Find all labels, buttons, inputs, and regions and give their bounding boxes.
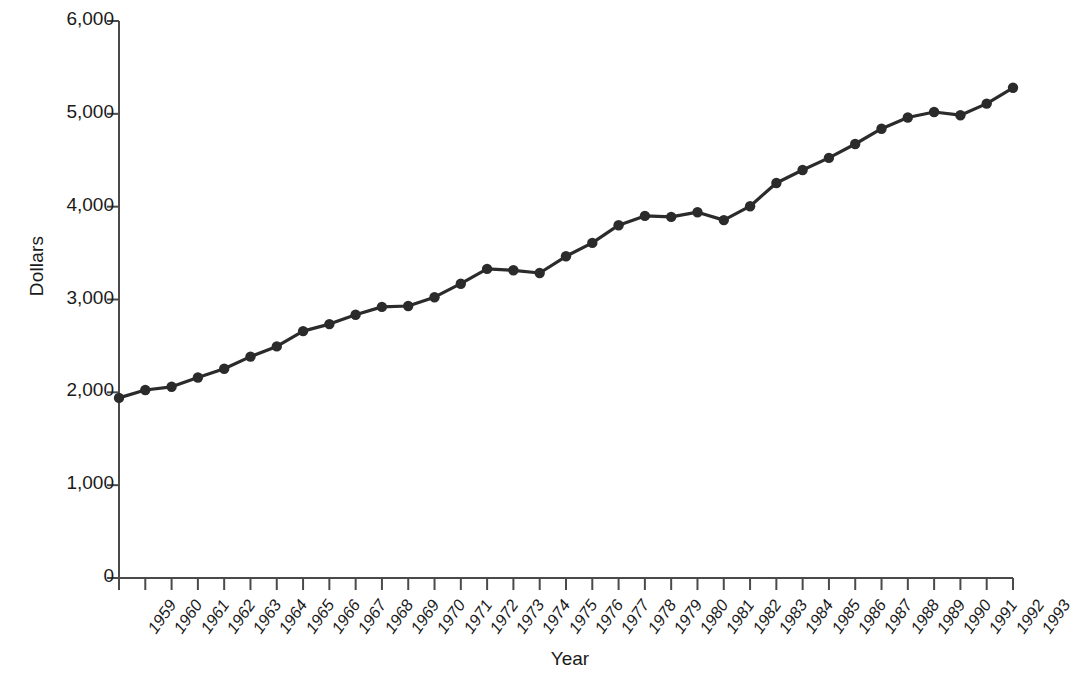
x-tick-label: 1993	[1038, 596, 1074, 637]
y-tick-label: 3,000	[22, 287, 114, 309]
x-axis-title: Year	[520, 648, 620, 670]
y-tick-label: 0	[22, 565, 114, 587]
y-tick-label: 5,000	[22, 101, 114, 123]
y-tick-label: 6,000	[22, 8, 114, 30]
data-point-markers	[114, 83, 1018, 403]
data-series-line	[119, 88, 1013, 398]
y-tick-label: 1,000	[22, 472, 114, 494]
y-tick-label: 2,000	[22, 379, 114, 401]
y-tick-label: 4,000	[22, 194, 114, 216]
chart-axes	[107, 21, 1013, 590]
